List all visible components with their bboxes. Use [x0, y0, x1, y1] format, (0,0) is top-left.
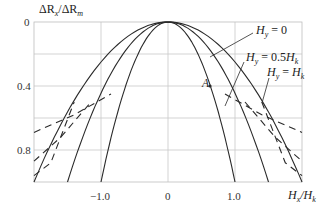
y-axis-title: ΔRx/ΔRm: [39, 2, 83, 18]
curve-dashed: [245, 102, 302, 161]
legend-hy05-val: = 0.5: [258, 50, 286, 64]
legend-hy0-val: = 0: [268, 23, 287, 37]
point-a-label: A: [201, 77, 210, 89]
legend-hy1-h: H: [267, 65, 276, 79]
x-tick-1: 1.0: [227, 190, 241, 202]
y-tick-08: 0.8: [17, 144, 31, 156]
x-title-main: H: [288, 188, 297, 202]
y-title-mid: /ΔR: [58, 2, 77, 16]
leader-hy05: [225, 62, 244, 106]
leader-hy1: [262, 78, 269, 103]
legend-hy1-hksub: k: [301, 72, 305, 81]
curve-dashed: [225, 94, 302, 132]
legend-hy0: Hy = 0: [256, 23, 287, 39]
y-title-sub2: m: [77, 9, 83, 18]
y-tick-04: 0.4: [17, 80, 31, 92]
legend-hy0-h: H: [256, 23, 265, 37]
legend-hy05-h: H: [246, 50, 255, 64]
y-tick-0: 0: [24, 16, 30, 28]
x-tick-m1: −1.0: [90, 190, 110, 202]
legend-hy1: Hy = Hk: [267, 65, 304, 81]
legend-hy1-val: =: [279, 65, 292, 79]
legend-hy05: Hy = 0.5Hk: [246, 50, 298, 66]
legend-hy1-hk: H: [292, 65, 301, 79]
legend-hy05-hk: H: [286, 50, 295, 64]
x-title-sub2: k: [312, 195, 316, 204]
x-title-mid: /H: [300, 188, 312, 202]
x-tick-0: 0: [165, 190, 171, 202]
y-title-main: ΔR: [39, 2, 55, 16]
x-axis-title: Hx/Hk: [288, 188, 316, 204]
curve-dashed: [34, 94, 111, 132]
